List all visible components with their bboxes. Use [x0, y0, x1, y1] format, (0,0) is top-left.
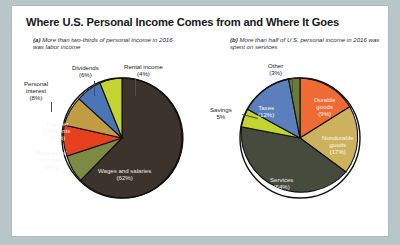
- pie-chart-income-sources: [58, 74, 186, 202]
- label-transfer-payments: Transfer payments (10%): [44, 120, 70, 142]
- label-taxes: Taxes (12%): [258, 104, 274, 118]
- page-title: Where U.S. Personal Income Comes from an…: [26, 16, 376, 29]
- leader-line-rental-income: [135, 79, 136, 96]
- leader-line-personal-interest: [51, 102, 52, 112]
- figure-card: Where U.S. Personal Income Comes from an…: [12, 6, 388, 236]
- label-proprietors-income: Proprietors' income (9%): [36, 149, 67, 171]
- panel-b-caption: (b) More than half of U.S. personal inco…: [230, 36, 380, 51]
- label-durable-goods: Durable goods (9%): [314, 96, 335, 118]
- label-dividends: Dividends (6%): [72, 64, 99, 78]
- panel-personal-income-uses: (b) More than half of U.S. personal inco…: [210, 36, 388, 232]
- label-other: Other (3%): [268, 62, 283, 76]
- label-personal-interest: Personal interest (8%): [24, 80, 48, 102]
- label-rental-income: Rental income (4%): [124, 63, 163, 77]
- panel-personal-income-sources: (a) More than two-thirds of personal inc…: [20, 36, 210, 232]
- panel-a-caption: (a) More than two-thirds of personal inc…: [33, 36, 183, 51]
- label-wages-and-salaries: Wages and salaries (62%): [98, 167, 151, 181]
- panel-b-caption-text: More than half of U.S. personal income i…: [230, 36, 379, 50]
- label-nondurable-goods: Nondurable goods (17%): [322, 134, 354, 156]
- leader-line-dividends: [94, 81, 95, 96]
- leader-line-other: [292, 78, 293, 93]
- panel-a-caption-text: More than two-thirds of personal income …: [33, 36, 173, 50]
- label-savings: Savings 5%: [210, 106, 232, 120]
- label-services: Services (54%): [270, 176, 293, 190]
- pie-a-svg: [58, 74, 186, 202]
- panel-b-caption-tag: (b): [230, 36, 238, 43]
